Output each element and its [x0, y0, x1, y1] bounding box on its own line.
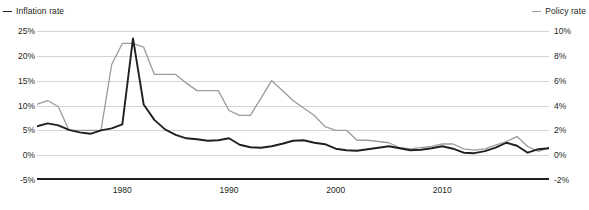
- y-axis-left-tick: -5%: [20, 176, 35, 185]
- series-lines: [37, 38, 549, 153]
- legend-label-inflation: Inflation rate: [16, 7, 64, 16]
- y-axis-left-tick: 15%: [18, 77, 35, 86]
- series-line-policy-rate: [37, 43, 549, 151]
- y-axis-right-tick: 10%: [554, 27, 571, 36]
- dual-axis-line-chart: Inflation rate Policy rate 25%20%15%10%5…: [0, 0, 589, 210]
- x-axis-tick: 1990: [220, 186, 239, 195]
- legend-policy-rate: Policy rate: [532, 7, 586, 16]
- x-axis-tick: 2010: [433, 186, 452, 195]
- series-line-inflation-rate: [37, 38, 549, 153]
- legend-inflation-rate: Inflation rate: [3, 7, 64, 16]
- gridlines: [37, 32, 549, 156]
- legend-swatch-policy-icon: [532, 11, 541, 12]
- x-axis-tick: 1980: [113, 186, 132, 195]
- x-axis-tick: 2000: [326, 186, 345, 195]
- y-axis-left-tick: 5%: [23, 126, 35, 135]
- plot-svg: [37, 31, 549, 180]
- y-axis-left-tick: 20%: [18, 52, 35, 61]
- y-axis-left-tick: 10%: [18, 102, 35, 111]
- y-axis-left-tick: 25%: [18, 27, 35, 36]
- y-axis-right-tick: -2%: [554, 176, 569, 185]
- legend-swatch-inflation-icon: [3, 11, 12, 12]
- plot-area: [37, 31, 549, 180]
- y-axis-right-tick: 4%: [554, 102, 566, 111]
- y-axis-right-tick: 2%: [554, 126, 566, 135]
- y-axis-left-tick: 0%: [23, 151, 35, 160]
- y-axis-right-tick: 6%: [554, 77, 566, 86]
- y-axis-right-tick: 8%: [554, 52, 566, 61]
- y-axis-right-tick: 0%: [554, 151, 566, 160]
- legend-label-policy: Policy rate: [545, 7, 586, 16]
